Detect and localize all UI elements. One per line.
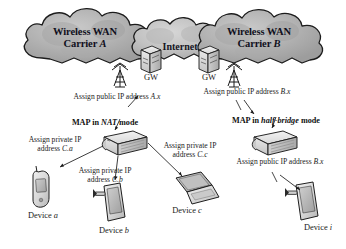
device-i-id: i — [330, 223, 332, 232]
cloud-label-carrier-a: Wireless WAN Carrier A — [38, 26, 132, 50]
carrier-b-italic: B — [274, 38, 281, 49]
assign-private-c-b-value: C.b — [112, 175, 123, 184]
cloud-label-carrier-b: Wireless WAN Carrier B — [212, 26, 306, 50]
assign-public-a-label: Assign public IP address A.x — [52, 93, 182, 102]
cloud-label-carrier-a-line1: Wireless WAN — [38, 26, 132, 38]
assign-public-b-top-value: B.x — [281, 87, 291, 96]
map-half-bridge-mode-value: half-bridge — [261, 116, 299, 125]
device-c-icon — [176, 172, 219, 204]
device-i-icon — [285, 182, 318, 220]
antenna-tower-left-icon — [112, 63, 128, 87]
device-a-icon — [33, 166, 49, 207]
device-a-label: Device a — [16, 211, 70, 221]
cloud-label-carrier-b-line2: Carrier B — [212, 38, 306, 50]
device-i-label: Device i — [291, 223, 345, 233]
device-b-id: b — [125, 226, 129, 235]
network-diagram-canvas: Wireless WAN Carrier A Internet Wireless… — [0, 0, 346, 249]
gateway-left-label: GW — [136, 73, 166, 83]
device-a-id: a — [54, 211, 58, 220]
assign-public-b-top-label: Assign public IP address B.x — [182, 88, 312, 97]
antenna-tower-right-icon — [226, 63, 242, 87]
device-b-label: Device b — [87, 226, 141, 236]
map-half-bridge-router-icon — [252, 131, 297, 155]
assign-private-c-c-label: Assign private IP address C.c — [148, 142, 232, 159]
gateway-right-label: GW — [194, 73, 224, 83]
cloud-label-internet: Internet — [145, 41, 215, 53]
device-b-icon — [93, 183, 125, 221]
assign-private-c-a-label: Assign private IP address C.a — [14, 136, 96, 153]
assign-private-c-b-label: Assign private IP address C.b — [62, 167, 148, 184]
carrier-a-italic: A — [100, 38, 107, 49]
assign-public-b-bottom-value: B.x — [314, 157, 324, 166]
device-c-id: c — [198, 206, 202, 215]
cloud-label-carrier-b-line1: Wireless WAN — [212, 26, 306, 38]
assign-public-b-bottom-label: Assign public IP address B.x — [216, 158, 344, 167]
assign-private-c-b-line2: address C.b — [62, 176, 148, 185]
cloud-label-carrier-a-line2: Carrier A — [38, 38, 132, 50]
assign-private-c-a-line2: address C.a — [14, 145, 96, 154]
assign-private-c-a-value: C.a — [62, 144, 73, 153]
map-half-bridge-label: MAP in half-bridge mode — [206, 116, 346, 125]
map-nat-mode-value: NAT — [101, 118, 117, 127]
device-c-label: Device c — [160, 206, 214, 216]
map-nat-label: MAP in NAT mode — [46, 118, 164, 127]
map-nat-router-icon — [102, 131, 147, 155]
assign-public-a-value: A.x — [151, 92, 161, 101]
assign-private-c-c-value: C.c — [197, 150, 207, 159]
